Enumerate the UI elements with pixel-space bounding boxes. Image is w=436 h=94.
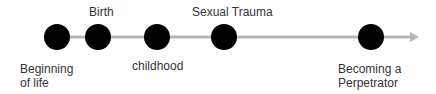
label-sexual-trauma: Sexual Trauma: [192, 5, 273, 19]
node-sexual-trauma: [211, 24, 237, 50]
label-childhood: childhood: [132, 59, 183, 73]
arrow-right-icon: [410, 32, 419, 42]
node-childhood: [144, 24, 170, 50]
node-birth: [85, 24, 111, 50]
label-beginning-of-life: Beginning of life: [20, 62, 73, 90]
node-beginning-of-life: [44, 24, 70, 50]
label-birth: Birth: [89, 5, 114, 19]
node-becoming-perpetrator: [358, 24, 384, 50]
timeline-diagram: Beginning of life Birth childhood Sexual…: [0, 0, 436, 94]
label-becoming-perpetrator: Becoming a Perpetrator: [338, 62, 401, 90]
